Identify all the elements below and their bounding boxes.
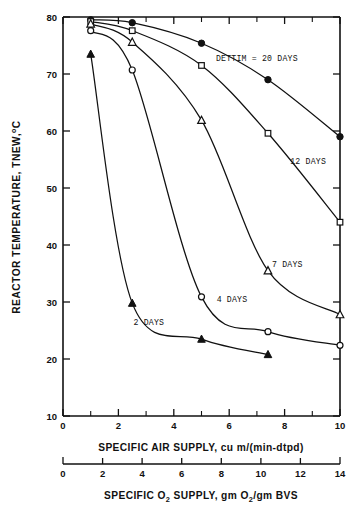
- series-5: [87, 50, 272, 358]
- data-point-marker: [337, 342, 343, 348]
- secondary-x-tick-label-14: 14: [335, 468, 346, 479]
- data-point-marker: [337, 219, 343, 225]
- data-point-marker: [129, 67, 135, 73]
- annotation-4: 4 DAYS: [217, 295, 248, 304]
- y-tick-label-40: 40: [46, 240, 57, 251]
- data-point-marker: [88, 28, 94, 34]
- x-tick-label-4: 4: [171, 420, 177, 431]
- series-3: [87, 20, 344, 318]
- x-tick-label-6: 6: [227, 420, 232, 431]
- x-axis-tick-labels: 0 2 4 6 8 10: [60, 420, 345, 431]
- annotation-5: 2 DAYS: [134, 318, 165, 327]
- data-point-marker: [198, 40, 204, 46]
- y-tick-label-60: 60: [46, 126, 57, 137]
- series-1: [88, 17, 344, 140]
- data-point-marker: [129, 20, 135, 26]
- y-axis-title: REACTOR TEMPERATURE, TNEW,oC: [9, 120, 22, 314]
- series-line: [91, 31, 340, 346]
- secondary-title-part2: SUPPLY, gm O: [170, 490, 248, 501]
- data-series-layer: [87, 17, 344, 358]
- secondary-axis: 0 2 4 6 8 10 12 14: [60, 457, 346, 479]
- data-point-marker: [198, 116, 206, 123]
- secondary-x-tick-label-4: 4: [139, 468, 145, 479]
- y-tick-label-50: 50: [46, 183, 57, 194]
- secondary-x-tick-label-2: 2: [100, 468, 105, 479]
- y-tick-label-80: 80: [46, 12, 57, 23]
- secondary-x-tick-label-0: 0: [60, 468, 65, 479]
- y-tick-label-70: 70: [46, 69, 57, 80]
- series-line: [91, 20, 340, 137]
- x-axis-title-primary: SPECIFIC AIR SUPPLY, cu m/(min-dtpd): [98, 442, 304, 453]
- y-axis-ticks: [63, 17, 340, 416]
- series-line: [91, 24, 340, 315]
- y-tick-label-20: 20: [46, 354, 57, 365]
- x-tick-label-0: 0: [60, 420, 65, 431]
- secondary-x-tick-label-6: 6: [179, 468, 184, 479]
- x-tick-label-10: 10: [335, 420, 346, 431]
- chart-figure: 80 70 60 50 40 30 20 10: [0, 0, 356, 510]
- secondary-x-tick-label-10: 10: [256, 468, 267, 479]
- data-point-marker: [199, 63, 205, 69]
- chart-svg: 80 70 60 50 40 30 20 10: [0, 0, 356, 510]
- data-point-marker: [128, 299, 136, 306]
- series-line: [91, 22, 340, 223]
- data-point-marker: [337, 134, 343, 140]
- data-point-marker: [336, 311, 344, 318]
- series-line: [91, 54, 268, 354]
- x-axis-title-secondary: SPECIFIC O2 SUPPLY, gm O2/gm BVS: [104, 490, 298, 504]
- data-point-marker: [199, 294, 205, 300]
- annotation-1: DETTIM = 20 DAYS: [216, 54, 298, 63]
- secondary-x-tick-label-8: 8: [219, 468, 224, 479]
- secondary-x-tick-label-12: 12: [295, 468, 306, 479]
- y-axis-tick-labels: 80 70 60 50 40 30 20 10: [46, 12, 57, 422]
- curve-annotations: DETTIM = 20 DAYS12 DAYS7 DAYS4 DAYS2 DAY…: [134, 54, 327, 326]
- y-tick-label-30: 30: [46, 297, 57, 308]
- data-point-marker: [265, 77, 271, 83]
- annotation-2: 12 DAYS: [290, 157, 326, 166]
- annotation-3: 7 DAYS: [272, 260, 303, 269]
- plot-axes: [63, 17, 340, 416]
- y-axis-title-text: REACTOR TEMPERATURE, TNEW,: [11, 133, 22, 314]
- data-point-marker: [265, 329, 271, 335]
- svg-text:REACTOR TEMPERATURE, TNEW,oC: REACTOR TEMPERATURE, TNEW,oC: [9, 120, 22, 314]
- x-tick-label-2: 2: [116, 420, 121, 431]
- y-tick-label-10: 10: [46, 411, 57, 422]
- secondary-title-part3: /gm BVS: [253, 490, 298, 501]
- data-point-marker: [265, 130, 271, 136]
- x-axis-ticks: [63, 17, 340, 416]
- secondary-title-part1: SPECIFIC O: [104, 490, 166, 501]
- y-axis-unit: C: [11, 120, 22, 128]
- data-point-marker: [87, 50, 95, 57]
- data-point-marker: [129, 28, 135, 34]
- x-tick-label-8: 8: [282, 420, 287, 431]
